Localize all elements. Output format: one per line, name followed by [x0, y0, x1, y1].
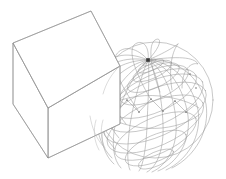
geometry-canvas — [0, 0, 226, 179]
lattice-node — [189, 73, 191, 75]
lattice-node — [126, 99, 128, 101]
lattice-node — [185, 111, 187, 113]
lattice-node — [162, 110, 164, 112]
sphere-pole-marker — [146, 58, 150, 62]
scene-root: Cube and wireframe sphere Line-art 3D ge… — [0, 0, 226, 179]
lattice-node — [174, 100, 176, 102]
lattice-node — [150, 98, 152, 100]
lattice-node — [138, 111, 140, 113]
lattice-node — [195, 87, 197, 89]
